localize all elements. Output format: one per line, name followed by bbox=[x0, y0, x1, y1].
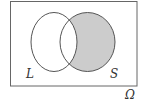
venn-diagram: L S Ω bbox=[0, 0, 144, 100]
set-s-label: S bbox=[110, 67, 118, 81]
universe-label: Ω bbox=[124, 88, 135, 100]
set-l-label: L bbox=[25, 67, 34, 81]
